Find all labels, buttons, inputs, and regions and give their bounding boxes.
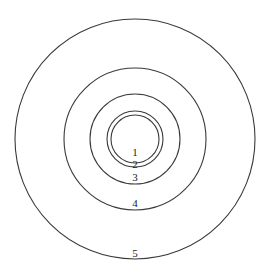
ring-group-5: 5: [15, 19, 255, 259]
concentric-circles-diagram: 5 4 3 2 1: [0, 0, 268, 273]
ring-4: [64, 68, 206, 210]
ring-group-1: 1: [111, 115, 159, 163]
ring-group-3: 3: [90, 94, 180, 184]
ring-5: [15, 19, 255, 259]
ring-label-5: 5: [132, 247, 138, 259]
ring-label-2: 2: [132, 158, 138, 170]
ring-group-2: 2: [107, 111, 163, 170]
ring-group-4: 4: [64, 68, 206, 210]
ring-label-1: 1: [132, 146, 138, 158]
ring-label-3: 3: [132, 171, 138, 183]
ring-label-4: 4: [132, 197, 138, 209]
